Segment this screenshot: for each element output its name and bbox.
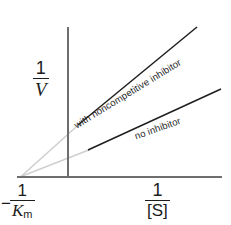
x-axis-label-denominator: [S]: [145, 201, 170, 219]
x-intercept-label: − 1 Km: [10, 182, 35, 220]
x-intercept-denominator-base: K: [12, 201, 23, 220]
plot-canvas: [0, 0, 231, 225]
y-axis-label-denominator: V: [33, 79, 49, 99]
x-intercept-denominator: Km: [10, 201, 35, 220]
y-axis-label-numerator: 1: [33, 59, 49, 79]
y-axis-label: 1 V: [33, 59, 49, 99]
x-intercept-denominator-subscript: m: [23, 208, 32, 220]
x-axis-label-numerator: 1: [145, 181, 170, 201]
x-intercept-minus-sign: −: [1, 195, 11, 212]
guide-line-no-inhibitor: [21, 150, 90, 177]
lineweaver-burk-figure: 1 V 1 [S] − 1 Km with noncompetitive inh…: [0, 0, 231, 225]
x-axis-label: 1 [S]: [145, 181, 170, 219]
guide-line-noncompetitive: [21, 124, 80, 177]
x-intercept-numerator: 1: [10, 182, 35, 201]
